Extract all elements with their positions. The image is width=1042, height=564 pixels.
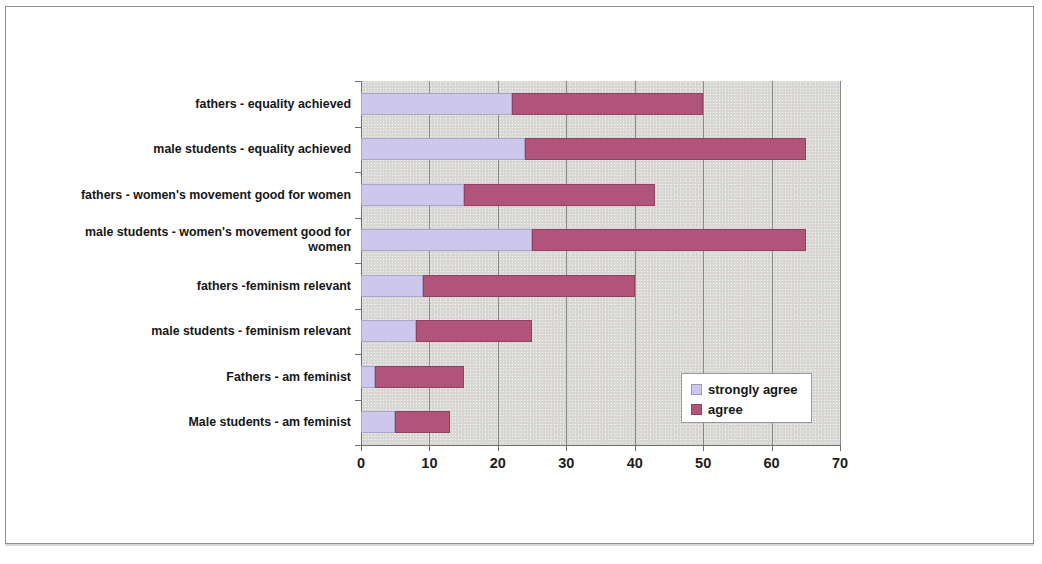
category-label: fathers -feminism relevant [51, 278, 351, 293]
y-tick-5 [355, 309, 361, 310]
category-label: Male students - am feminist [51, 415, 351, 430]
gridline-x-40 [635, 81, 636, 445]
y-tick-7 [355, 400, 361, 401]
bar-segment [361, 93, 512, 115]
y-tick-6 [355, 354, 361, 355]
category-label: Fathers - am feminist [51, 369, 351, 384]
y-tick-3 [355, 218, 361, 219]
category-label: male students - equality achieved [51, 142, 351, 157]
legend-item-agree: agree [691, 399, 811, 419]
gridline-x-30 [566, 81, 567, 445]
bar-segment [416, 320, 532, 342]
category-label: fathers - equality achieved [51, 96, 351, 111]
bar-segment [464, 184, 656, 206]
y-axis-line [361, 81, 362, 445]
gridline-x-70 [840, 81, 841, 445]
x-tick-label-0: 0 [357, 455, 365, 471]
x-tick-label-10: 10 [421, 455, 437, 471]
y-tick-1 [355, 127, 361, 128]
x-tick-label-40: 40 [627, 455, 643, 471]
legend-label-agree: agree [708, 402, 743, 417]
x-tick-label-50: 50 [695, 455, 711, 471]
legend-label-strongly-agree: strongly agree [708, 382, 798, 397]
y-tick-0 [355, 81, 361, 82]
chart-screenshot: 010203040506070fathers - equality achiev… [0, 0, 1042, 564]
x-tick-label-30: 30 [558, 455, 574, 471]
y-tick-4 [355, 263, 361, 264]
y-tick-8 [355, 445, 361, 446]
legend-swatch-strongly-agree [691, 384, 702, 395]
bar-segment [375, 366, 464, 388]
bar-segment [361, 184, 464, 206]
bar-segment [395, 411, 450, 433]
bar-segment [361, 366, 375, 388]
bar-segment [361, 275, 423, 297]
bar-segment [361, 320, 416, 342]
category-label: fathers - women's movement good for wome… [51, 187, 351, 202]
x-axis-line [361, 445, 841, 446]
bar-segment [532, 229, 806, 251]
legend-item-strongly-agree: strongly agree [691, 379, 811, 399]
gridline-x-20 [498, 81, 499, 445]
stacked-bar-chart: 010203040506070fathers - equality achiev… [0, 0, 1042, 564]
bar-segment [361, 411, 395, 433]
bar-segment [423, 275, 635, 297]
chart-legend: strongly agree agree [681, 373, 812, 423]
category-label: male students - feminism relevant [51, 324, 351, 339]
x-tick-label-70: 70 [832, 455, 848, 471]
x-tick-label-60: 60 [763, 455, 779, 471]
category-label: male students - women's movement good fo… [51, 225, 351, 255]
y-tick-2 [355, 172, 361, 173]
bar-segment [361, 229, 532, 251]
bar-segment [525, 138, 806, 160]
bar-segment [512, 93, 704, 115]
legend-swatch-agree [691, 404, 702, 415]
bar-segment [361, 138, 525, 160]
x-tick-label-20: 20 [490, 455, 506, 471]
gridline-x-10 [429, 81, 430, 445]
